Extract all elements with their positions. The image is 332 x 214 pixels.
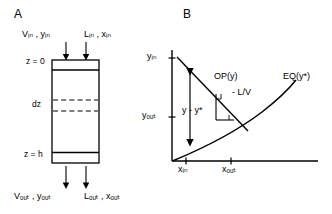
figure-root: A Vᵢₙ , yᵢₙ Lᵢₙ , xᵢₙ z = 0 dz z = h Vₒᵤ…	[0, 0, 332, 214]
panel-b-graphics	[0, 0, 332, 214]
equilibrium-curve	[173, 80, 297, 161]
operating-line	[177, 57, 248, 131]
